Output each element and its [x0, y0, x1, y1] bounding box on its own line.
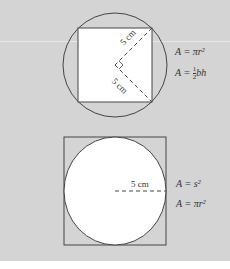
geometry-figures [0, 0, 230, 269]
formula-square-area: A = s² [176, 178, 201, 189]
formula-circle-area-top: A = πr² [175, 46, 205, 57]
formula-circle-area-bottom: A = πr² [176, 198, 206, 209]
square-with-inscribed-circle [64, 137, 166, 245]
label-radius-5cm: 5 cm [131, 179, 149, 189]
formula-triangle-area: A = 12bh [175, 66, 206, 81]
circle-with-inscribed-square [63, 13, 167, 117]
